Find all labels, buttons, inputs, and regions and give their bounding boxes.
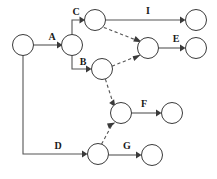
upper-branch-node[interactable] [85, 10, 106, 31]
i-end-node[interactable] [186, 10, 207, 31]
edge-f [132, 110, 162, 117]
edge-c-to-merge-line [104, 27, 137, 40]
edge-b-to-merge-arrowhead [133, 54, 141, 61]
edge-label-d: D [54, 140, 61, 151]
edge-e [159, 45, 186, 52]
edge-f-arrowhead [156, 110, 162, 117]
edge-d-to-f-arrowhead [107, 123, 115, 129]
edge-label-a: A [48, 31, 56, 42]
start-node[interactable] [13, 35, 34, 56]
edge-a [34, 42, 63, 49]
edge-c [72, 17, 85, 35]
edge-g-arrowhead [136, 152, 142, 159]
edge-b-arrowhead [86, 66, 92, 73]
merge-node[interactable] [138, 38, 159, 59]
edge-e-arrowhead [180, 45, 186, 52]
edge-label-f: F [141, 98, 147, 109]
edge-label-e: E [173, 33, 180, 44]
edge-b-to-merge [112, 54, 141, 66]
edge-i [106, 17, 186, 24]
diagram-canvas: A C B I E F D G [0, 0, 217, 179]
g-end-node[interactable] [142, 145, 163, 166]
f-end-node[interactable] [162, 103, 183, 124]
edge-label-g: G [123, 140, 131, 151]
e-end-node[interactable] [186, 38, 207, 59]
edge-d-arrowhead [82, 151, 88, 158]
f-source-node[interactable] [111, 103, 132, 124]
d-target-node[interactable] [88, 144, 109, 165]
edge-d-to-f-line [102, 126, 112, 144]
b-target-node[interactable] [92, 59, 113, 80]
edge-d-line [23, 56, 82, 155]
edge-i-arrowhead [180, 17, 186, 24]
edge-c-to-merge [104, 27, 142, 42]
edge-c-line [72, 20, 80, 35]
edge-g [109, 152, 142, 159]
graph-svg: A C B I E F D G [0, 0, 217, 179]
edge-b-to-merge-line [112, 57, 136, 66]
edge-label-i: I [146, 5, 150, 16]
edge-b-to-f-line [105, 79, 112, 101]
edge-label-b: B [80, 56, 87, 67]
split-node[interactable] [62, 35, 83, 56]
edge-d-to-f [102, 123, 116, 145]
edge-b-to-f [105, 79, 115, 107]
edge-label-c: C [72, 6, 79, 17]
